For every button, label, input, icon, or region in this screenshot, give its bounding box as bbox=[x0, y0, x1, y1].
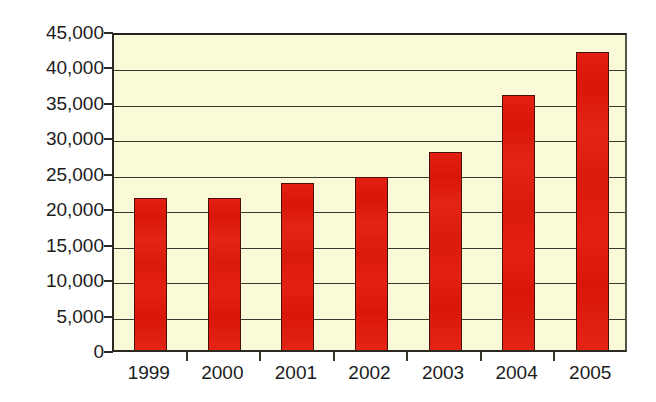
bar bbox=[281, 183, 314, 350]
bar bbox=[576, 52, 609, 350]
x-axis-tick-mark bbox=[480, 352, 482, 361]
x-axis-tick-label: 2002 bbox=[333, 362, 407, 383]
y-axis-tick-mark bbox=[104, 103, 113, 105]
bar-chart: 05,00010,00015,00020,00025,00030,00035,0… bbox=[0, 0, 656, 402]
y-axis-tick-mark bbox=[104, 316, 113, 318]
x-axis-tick-mark bbox=[406, 352, 408, 361]
y-axis-tick-label: 0 bbox=[0, 342, 104, 361]
y-axis-labels: 05,00010,00015,00020,00025,00030,00035,0… bbox=[0, 0, 104, 402]
y-axis-tick-label: 10,000 bbox=[0, 271, 104, 290]
y-axis-tick-mark bbox=[104, 32, 113, 34]
x-axis-tick-label: 2000 bbox=[186, 362, 260, 383]
y-axis-tick-mark bbox=[104, 174, 113, 176]
y-axis-tick-label: 25,000 bbox=[0, 165, 104, 184]
y-axis-tick-label: 35,000 bbox=[0, 94, 104, 113]
x-axis-tick-mark bbox=[259, 352, 261, 361]
x-axis-tick-mark bbox=[186, 352, 188, 361]
plot-area bbox=[112, 33, 627, 352]
x-axis-tick-mark bbox=[333, 352, 335, 361]
x-axis-tick-mark bbox=[553, 352, 555, 361]
bar bbox=[429, 152, 462, 350]
bar bbox=[502, 95, 535, 350]
y-axis-tick-mark bbox=[104, 280, 113, 282]
y-axis-tick-mark bbox=[104, 209, 113, 211]
y-axis-tick-label: 5,000 bbox=[0, 307, 104, 326]
bar bbox=[134, 198, 167, 350]
x-axis-tick-label: 1999 bbox=[112, 362, 186, 383]
y-axis-tick-label: 40,000 bbox=[0, 58, 104, 77]
y-axis-tick-mark bbox=[104, 67, 113, 69]
y-axis-tick-mark bbox=[104, 351, 113, 353]
y-axis-tick-label: 15,000 bbox=[0, 236, 104, 255]
bar bbox=[355, 177, 388, 350]
y-axis-tick-label: 20,000 bbox=[0, 200, 104, 219]
x-axis-labels: 1999200020012002200320042005 bbox=[112, 352, 627, 402]
y-axis-tick-mark bbox=[104, 138, 113, 140]
y-axis-tick-label: 45,000 bbox=[0, 23, 104, 42]
y-axis-tick-label: 30,000 bbox=[0, 129, 104, 148]
x-axis-tick-label: 2003 bbox=[406, 362, 480, 383]
bar bbox=[208, 198, 241, 350]
x-axis-tick-label: 2001 bbox=[259, 362, 333, 383]
bar-series bbox=[114, 35, 625, 350]
y-axis-tick-mark bbox=[104, 245, 113, 247]
x-axis-tick-label: 2005 bbox=[553, 362, 627, 383]
x-axis-tick-label: 2004 bbox=[480, 362, 554, 383]
